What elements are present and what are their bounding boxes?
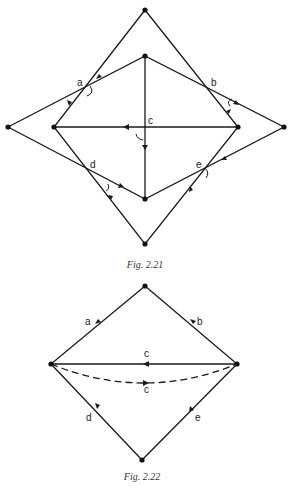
label-c: c: [148, 115, 153, 126]
label-e: e: [196, 159, 202, 170]
label-b: b: [197, 316, 203, 327]
diamond-2-22: [51, 286, 237, 460]
label-e: e: [195, 412, 201, 423]
edge-c-dashed: [51, 364, 237, 383]
figure-canvas: a b c d e Fig. 2.21 a b c c d e: [0, 0, 291, 490]
edge-arrows-2-21: [67, 74, 239, 200]
rotation-arrows-2-21: [87, 86, 232, 191]
label-a: a: [77, 77, 83, 88]
edge-arrows-2-22: [95, 319, 196, 412]
caption-fig-2-22: Fig. 2.22: [123, 471, 160, 482]
label-c-dashed: c: [144, 384, 149, 395]
fig-2-21: a b c d e Fig. 2.21: [5, 7, 286, 270]
label-c-solid: c: [144, 348, 149, 359]
label-b: b: [211, 77, 217, 88]
label-d: d: [86, 412, 92, 423]
fig-2-22: a b c c d e Fig. 2.22: [48, 283, 239, 482]
label-d: d: [90, 159, 96, 170]
caption-fig-2-21: Fig. 2.21: [126, 259, 163, 270]
label-a: a: [85, 316, 91, 327]
